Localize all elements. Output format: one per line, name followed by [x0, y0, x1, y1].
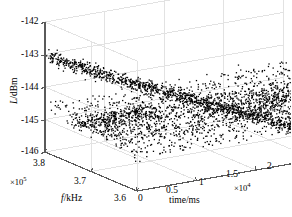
axis-label-depth-unit: /kHz: [64, 193, 82, 203]
axis-label-vertical-symbol: L: [9, 99, 19, 104]
vtick-4: -146: [21, 147, 38, 157]
depth-multiplier-exponent: 5: [23, 175, 26, 182]
depth-multiplier-base: ×10: [10, 177, 23, 187]
vtick-2: -144: [21, 83, 38, 93]
dtick-0: 3.8: [33, 159, 45, 169]
axis-label-vertical: L/dBm: [10, 78, 20, 104]
axis-label-depth: f/kHz: [61, 194, 82, 204]
axis-label-horizontal: time/ms: [169, 196, 200, 206]
dtick-2: 3.6: [114, 194, 126, 204]
horizontal-axis-multiplier: ×104: [234, 182, 251, 192]
horizontal-multiplier-base: ×10: [234, 183, 247, 193]
vtick-3: -145: [21, 116, 38, 126]
axis-label-vertical-unit: /dBm: [9, 78, 19, 99]
vtick-0: -142: [21, 17, 38, 27]
horizontal-multiplier-exponent: 4: [247, 181, 250, 188]
htick-4: 2: [267, 162, 272, 172]
htick-3: 1.5: [226, 170, 238, 180]
vtick-1: -143: [21, 50, 38, 60]
dtick-1: 3.7: [74, 177, 86, 187]
axis-lines: [42, 22, 292, 191]
htick-2: 1: [199, 178, 204, 188]
figure-3d-scatter-plot: L/dBm -142 -143 -144 -145 -146 3.8 3.7 3…: [0, 0, 291, 217]
depth-axis-multiplier: ×105: [10, 176, 27, 186]
figure-caption: [0, 208, 291, 217]
htick-0: 0: [138, 194, 143, 204]
